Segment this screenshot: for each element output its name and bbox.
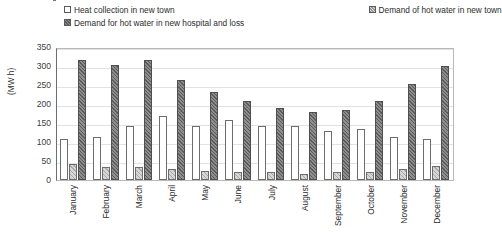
bar-group — [354, 49, 387, 180]
x-axis-label: November — [399, 185, 409, 224]
bar-series-2 — [234, 172, 242, 180]
bar-series-3 — [276, 108, 284, 180]
bar-group — [189, 49, 222, 180]
x-axis-label: June — [233, 185, 243, 203]
x-axis-label-cell: March — [122, 183, 155, 243]
x-axis-label-cell: June — [222, 183, 255, 243]
bar-series-1 — [291, 126, 299, 180]
bar-series-1 — [357, 129, 365, 180]
x-axis-label-cell: August — [288, 183, 321, 243]
bar-series-3 — [309, 112, 317, 180]
bar-group — [222, 49, 255, 180]
bar-series-2 — [300, 174, 308, 180]
bar-series-3 — [210, 92, 218, 180]
bar-group — [288, 49, 321, 180]
bar-series-2 — [432, 166, 440, 180]
chart-legend: Heat collection in new town Demand of ho… — [56, 3, 456, 31]
bar-series-1 — [324, 131, 332, 180]
legend-swatch-dark-hatch-icon — [64, 19, 71, 26]
bar-series-1 — [192, 126, 200, 180]
bar-series-3 — [111, 65, 119, 180]
bar-series-1 — [423, 139, 431, 180]
legend-label-demand-town: Demand of hot water in new town — [379, 5, 502, 15]
x-axis-label: April — [167, 185, 177, 202]
x-axis-label-cell: May — [189, 183, 222, 243]
legend-label-demand-hospital: Demand for hot water in new hospital and… — [74, 18, 244, 28]
y-axis-tick-label: 250 — [37, 80, 51, 90]
y-axis-tickmark — [53, 0, 56, 1]
x-axis-label-cell: January — [56, 183, 89, 243]
bar-series-3 — [144, 60, 152, 180]
bar-group — [255, 49, 288, 180]
y-axis-tick-label: 350 — [37, 42, 51, 52]
bar-series-3 — [375, 101, 383, 180]
bar-series-2 — [168, 169, 176, 180]
x-axis-label-cell: November — [388, 183, 421, 243]
x-axis-label-cell: December — [421, 183, 454, 243]
bar-series-3 — [177, 80, 185, 180]
bar-group — [156, 49, 189, 180]
x-axis-label-cell: September — [321, 183, 354, 243]
bar-series-1 — [258, 126, 266, 180]
x-axis-label-cell: October — [355, 183, 388, 243]
legend-item-demand-hospital: Demand for hot water in new hospital and… — [64, 16, 244, 29]
bar-series-2 — [333, 172, 341, 180]
bar-series-1 — [159, 116, 167, 180]
x-axis-label: March — [134, 185, 144, 208]
x-axis-label: December — [432, 185, 442, 224]
bar-group — [321, 49, 354, 180]
y-axis-tick-label: 0 — [46, 175, 51, 185]
y-axis-tick-label: 100 — [37, 137, 51, 147]
y-axis-title: (MW h) — [6, 68, 16, 95]
bar-group — [387, 49, 420, 180]
bar-group — [57, 49, 90, 180]
x-axis-labels: JanuaryFebruaryMarchAprilMayJuneJulyAugu… — [56, 183, 454, 243]
bar-groups — [57, 49, 453, 180]
x-axis-label-cell: April — [156, 183, 189, 243]
legend-row-2: Demand for hot water in new hospital and… — [56, 16, 456, 29]
legend-item-heat-collection: Heat collection in new town — [64, 3, 175, 16]
bar-series-3 — [243, 101, 251, 180]
x-axis-label-cell: February — [89, 183, 122, 243]
x-axis-label: January — [68, 185, 78, 215]
bar-series-3 — [78, 60, 86, 180]
bar-group — [420, 49, 453, 180]
y-axis-tick-label: 150 — [37, 118, 51, 128]
y-axis-tick-label: 200 — [37, 99, 51, 109]
legend-swatch-white-icon — [64, 6, 71, 13]
y-axis-tick-label: 300 — [37, 61, 51, 71]
legend-swatch-light-hatch-icon — [369, 6, 376, 13]
bar-series-2 — [399, 169, 407, 180]
bar-series-1 — [126, 126, 134, 180]
bar-series-3 — [441, 66, 449, 180]
x-axis-label-cell: July — [255, 183, 288, 243]
x-axis-label: May — [200, 185, 210, 201]
legend-label-heat-collection: Heat collection in new town — [74, 5, 175, 15]
x-axis-label: February — [101, 185, 111, 219]
x-axis-label: September — [333, 185, 343, 226]
bar-series-3 — [408, 84, 416, 180]
bar-series-1 — [225, 120, 233, 180]
x-axis-label: July — [267, 185, 277, 200]
plot-area — [56, 48, 454, 181]
bar-series-2 — [102, 167, 110, 180]
x-axis-label: August — [300, 185, 310, 211]
bar-series-1 — [93, 137, 101, 180]
legend-row-1: Heat collection in new town Demand of ho… — [56, 3, 456, 16]
bar-series-2 — [135, 167, 143, 180]
bar-series-1 — [390, 137, 398, 180]
bar-group — [123, 49, 156, 180]
bar-group — [90, 49, 123, 180]
bar-series-2 — [366, 172, 374, 180]
bar-series-2 — [267, 172, 275, 180]
legend-item-demand-town: Demand of hot water in new town — [369, 3, 502, 16]
bar-series-3 — [342, 110, 350, 180]
bar-series-1 — [60, 139, 68, 180]
bar-series-2 — [69, 164, 77, 180]
bar-series-2 — [201, 171, 209, 181]
y-axis-tick-label: 50 — [41, 156, 51, 166]
x-axis-label: October — [366, 185, 376, 215]
